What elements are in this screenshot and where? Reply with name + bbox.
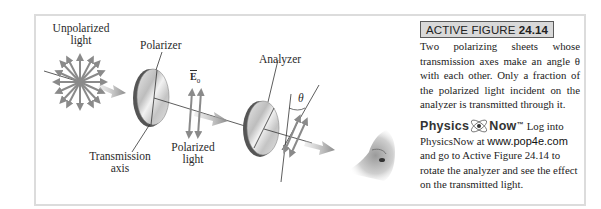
physicsnow-note: PhysicsNow™ Log into PhysicsNow at www.p… bbox=[420, 118, 580, 192]
label-polarizer: Polarizer bbox=[140, 39, 182, 51]
physicsnow-brand: PhysicsNow™ bbox=[420, 119, 524, 133]
unpolarized-light-star-icon bbox=[56, 57, 104, 107]
physicsnow-text-2: and go to Active Figure 24.14 to rotate … bbox=[420, 149, 577, 190]
analyzer-disk bbox=[243, 101, 279, 157]
caption-text: Two polarizing sheets whose transmission… bbox=[420, 39, 580, 112]
tag-prefix: ACTIVE FIGURE bbox=[426, 24, 519, 36]
label-analyzer: Analyzer bbox=[259, 53, 301, 65]
observer-eye-icon bbox=[346, 130, 395, 181]
physicsnow-url-link[interactable]: www.pop4e.com bbox=[487, 135, 568, 147]
label-unpolarized-light: Unpolarized light bbox=[46, 22, 116, 46]
label-e0: E0 bbox=[190, 71, 200, 87]
e0-subscript: 0 bbox=[197, 77, 201, 85]
label-polarized-light: Polarized light bbox=[168, 141, 218, 165]
figure-caption: ACTIVE FIGURE 24.14 Two polarizing sheet… bbox=[420, 20, 580, 192]
label-line: Unpolarized bbox=[46, 22, 116, 34]
brand-physics: Physics bbox=[420, 119, 469, 133]
e0-vector-symbol: E bbox=[190, 70, 197, 82]
atom-icon bbox=[469, 118, 489, 134]
label-line: Polarized bbox=[168, 141, 218, 153]
label-line: Transmission bbox=[85, 150, 155, 162]
active-figure-tag: ACTIVE FIGURE 24.14 bbox=[420, 21, 554, 38]
label-line: axis bbox=[85, 162, 155, 174]
tag-number: 24.14 bbox=[519, 24, 548, 36]
label-line: light bbox=[168, 153, 218, 165]
brand-now: Now bbox=[489, 119, 516, 133]
label-transmission-axis: Transmission axis bbox=[85, 150, 155, 174]
trademark: ™ bbox=[517, 121, 524, 128]
label-theta: θ bbox=[298, 92, 304, 104]
polarizer-disk bbox=[133, 69, 169, 127]
beam-arrow-3 bbox=[304, 141, 335, 155]
label-line: light bbox=[46, 34, 116, 46]
